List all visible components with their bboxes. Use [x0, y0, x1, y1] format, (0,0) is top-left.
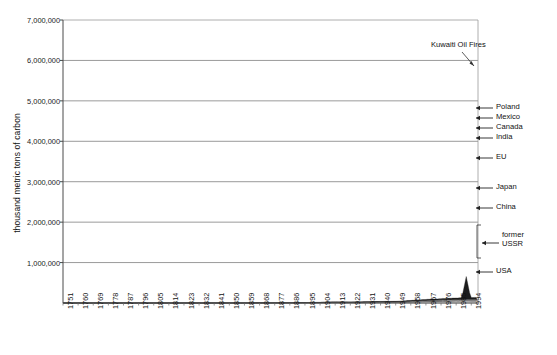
x-tick-label: 1832 — [202, 293, 211, 309]
x-tick-label: 1895 — [308, 293, 317, 309]
series-label-former-ussr: formerUSSR — [502, 231, 524, 248]
x-tick-label: 1877 — [277, 293, 286, 309]
series-label-mexico: Mexico — [496, 113, 520, 122]
x-tick-label: 1796 — [141, 293, 150, 309]
x-tick-label: 1994 — [474, 293, 483, 309]
series-label-canada: Canada — [496, 123, 523, 132]
x-tick-label: 1769 — [96, 293, 105, 309]
x-tick-label: 1868 — [262, 293, 271, 309]
x-tick-label: 1751 — [66, 293, 75, 309]
series-label-eu: EU — [496, 153, 507, 162]
x-tick-label: 1760 — [81, 293, 90, 309]
series-label-japan: Japan — [496, 183, 517, 192]
x-axis-tick-labels: 1751176017691778178717961805181418231832… — [0, 0, 557, 355]
x-tick-label: 1904 — [323, 293, 332, 309]
x-tick-label: 1940 — [383, 293, 392, 309]
series-label-china: China — [496, 203, 516, 212]
x-tick-label: 1805 — [156, 293, 165, 309]
x-tick-label: 1985 — [459, 293, 468, 309]
x-tick-label: 1967 — [429, 293, 438, 309]
x-tick-label: 1922 — [353, 293, 362, 309]
x-tick-label: 1913 — [338, 293, 347, 309]
x-tick-label: 1859 — [247, 293, 256, 309]
x-tick-label: 1823 — [187, 293, 196, 309]
x-tick-label: 1850 — [232, 293, 241, 309]
x-tick-label: 1778 — [111, 293, 120, 309]
x-tick-label: 1886 — [292, 293, 301, 309]
x-tick-label: 1949 — [398, 293, 407, 309]
series-label-india: India — [496, 133, 512, 142]
x-tick-label: 1787 — [126, 293, 135, 309]
x-tick-label: 1958 — [413, 293, 422, 309]
x-tick-label: 1841 — [217, 293, 226, 309]
chart-figure: thousand metric tons of carbon 1,000,000… — [0, 0, 557, 355]
x-tick-label: 1976 — [444, 293, 453, 309]
series-label-poland: Poland — [496, 103, 520, 112]
x-tick-label: 1931 — [368, 293, 377, 309]
x-tick-label: 1814 — [171, 293, 180, 309]
series-label-usa: USA — [496, 267, 512, 276]
annotation-kuwaiti-oil-fires: Kuwaiti Oil Fires — [431, 40, 486, 49]
